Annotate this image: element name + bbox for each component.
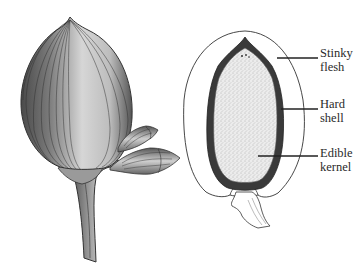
label-stinky-flesh: Stinky flesh — [320, 46, 353, 74]
label-hard-shell: Hard shell — [320, 97, 345, 125]
diagram-canvas — [0, 0, 364, 272]
label-edible-kernel: Edible kernel — [320, 146, 353, 174]
figure: Stinky flesh Hard shell Edible kernel — [0, 0, 364, 272]
label-line: flesh — [320, 60, 353, 74]
whole-fruit-illustration — [21, 17, 180, 262]
label-line: Edible — [320, 146, 353, 160]
label-line: shell — [320, 111, 345, 125]
label-line: Hard — [320, 97, 345, 111]
cross-section-illustration — [184, 31, 305, 228]
label-line: Stinky — [320, 46, 353, 60]
label-line: kernel — [320, 160, 353, 174]
fruit-body — [21, 17, 132, 169]
